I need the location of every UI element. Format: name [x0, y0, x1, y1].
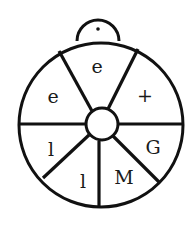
segment-label-lower-right: G: [145, 136, 160, 158]
wheel-diagram: e + G M l l e: [0, 0, 196, 226]
segment-label-upper-left: e: [47, 85, 58, 107]
segment-label-upper-right: +: [137, 84, 153, 106]
segment-label-top: e: [91, 55, 102, 77]
handle-dot: [96, 27, 100, 31]
segment-label-bottom-left: l: [80, 170, 86, 192]
center-hub: [86, 108, 118, 140]
segment-label-lower-left: l: [48, 138, 54, 160]
segment-label-bottom-right: M: [114, 166, 133, 188]
wheel-svg: e + G M l l e: [0, 0, 196, 226]
